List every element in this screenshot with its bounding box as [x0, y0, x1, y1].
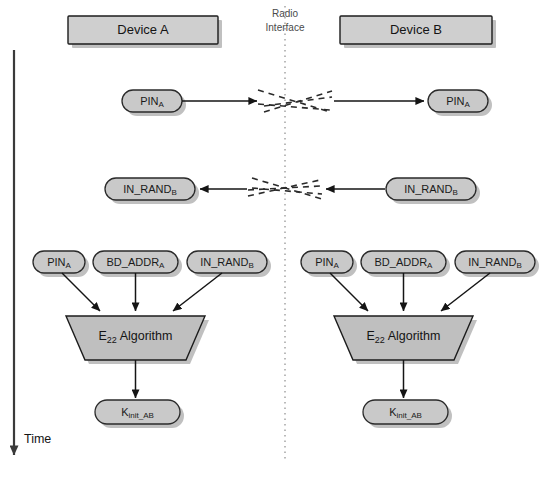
device-b-input-0-connector [330, 273, 368, 311]
device-b-output-node: Kinit_AB [363, 400, 452, 428]
time-axis-label: Time [24, 432, 51, 446]
device-b-input-0: PINA [301, 251, 357, 277]
in-rand-b-radio-wave [248, 178, 322, 199]
exchange-in-rand-b: IN_RANDB IN_RANDB [105, 178, 480, 204]
device-a-input-1: BD_ADDRA [93, 251, 182, 277]
device-b-input-2: IN_RANDB [455, 251, 539, 277]
radio-interface-header: Radio Interface [266, 8, 305, 33]
device-a-input-0: PINA [33, 251, 89, 277]
device-a-input-0-connector [62, 273, 100, 311]
device-b-algorithm-node: E22 Algorithm [334, 316, 477, 364]
device-a-input-2-connector [173, 273, 222, 311]
device-a-output-node: Kinit_AB [95, 400, 184, 428]
diagram-canvas: Time Device A Radio Interface Device B P… [0, 0, 550, 477]
device-b-header-label: Device B [390, 22, 442, 37]
exchange-pin-a: PINA PINA [122, 90, 492, 116]
device-a-header: Device A [68, 16, 222, 48]
device-a-algorithm-node: E22 Algorithm [66, 316, 209, 364]
device-a-computation: PINA BD_ADDRA IN_RANDB E22 Algo [33, 251, 271, 428]
radio-interface-label-line1: Radio [272, 8, 299, 19]
radio-interface-label-line2: Interface [266, 22, 305, 33]
device-a-input-2: IN_RANDB [187, 251, 271, 277]
pin-a-radio-wave [258, 90, 332, 112]
device-a-header-label: Device A [117, 22, 169, 37]
in-rand-b-source-node: IN_RANDB [386, 178, 480, 204]
device-b-computation: PINA BD_ADDRA IN_RANDB E22 Algo [301, 251, 539, 428]
in-rand-b-target-node: IN_RANDB [105, 178, 199, 204]
device-b-input-2-connector [441, 273, 490, 311]
pin-a-target-node: PINA [428, 90, 492, 116]
device-b-header: Device B [340, 16, 496, 48]
pin-a-source-node: PINA [122, 90, 186, 116]
device-b-input-1: BD_ADDRA [361, 251, 450, 277]
